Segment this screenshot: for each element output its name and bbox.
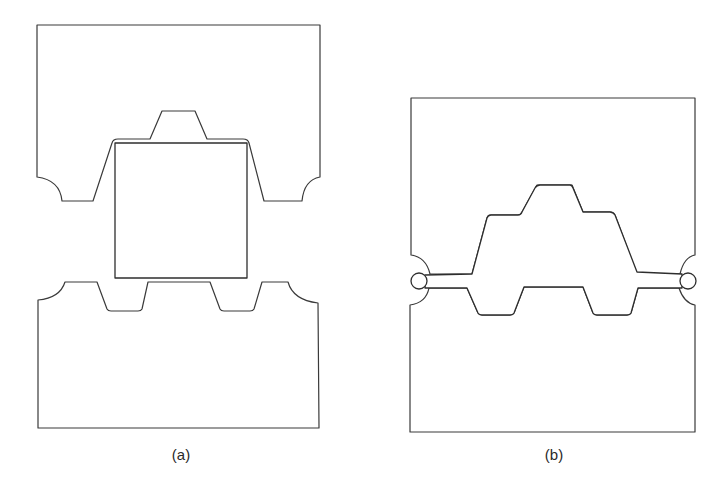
lower-die-b bbox=[410, 287, 695, 432]
panel-label-b: (b) bbox=[545, 446, 563, 463]
forging-dies-figure bbox=[0, 0, 719, 489]
panel-label-a: (a) bbox=[172, 446, 190, 463]
panel-b bbox=[410, 98, 696, 432]
flash-right bbox=[680, 273, 696, 289]
billet-a bbox=[115, 143, 247, 278]
flash-left bbox=[411, 273, 427, 289]
lower-die-a bbox=[38, 282, 319, 428]
panel-a bbox=[37, 25, 320, 428]
